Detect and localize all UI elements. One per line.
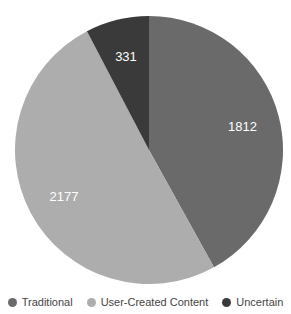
slice-value-label: 2177: [50, 188, 79, 203]
legend-swatch-icon: [8, 298, 17, 307]
slice-value-label: 1812: [228, 118, 257, 133]
legend-swatch-icon: [87, 298, 96, 307]
legend-item-traditional[interactable]: Traditional: [8, 296, 73, 308]
legend-label: Traditional: [22, 296, 73, 308]
legend: Traditional User-Created Content Uncerta…: [0, 296, 291, 308]
legend-item-user-created-content[interactable]: User-Created Content: [87, 296, 209, 308]
legend-swatch-icon: [222, 298, 231, 307]
legend-label: Uncertain: [236, 296, 283, 308]
legend-item-uncertain[interactable]: Uncertain: [222, 296, 283, 308]
slice-value-label: 331: [115, 49, 137, 64]
pie-chart: [0, 0, 291, 292]
legend-label: User-Created Content: [101, 296, 209, 308]
